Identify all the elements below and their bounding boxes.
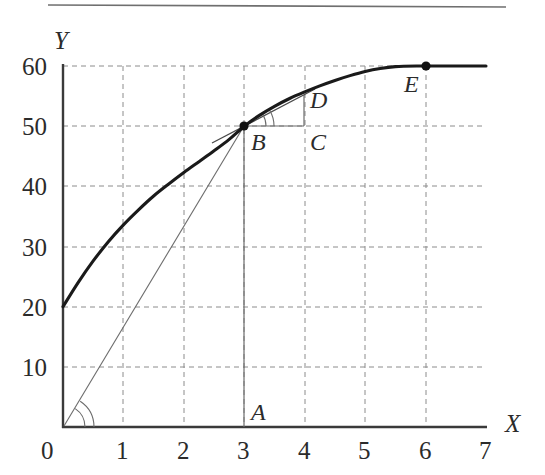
xtick-label-6: 6 bbox=[419, 438, 432, 463]
x-axis-title: X bbox=[505, 411, 520, 436]
angle-arc-origin-inner bbox=[75, 409, 85, 427]
annotation-label-e: E bbox=[404, 72, 419, 96]
xtick-label-1: 1 bbox=[116, 438, 129, 463]
xtick-label-3: 3 bbox=[237, 438, 250, 463]
annotation-label-c: C bbox=[310, 130, 326, 154]
annotation-label-a: A bbox=[251, 400, 266, 424]
ray-origin-to-b bbox=[64, 126, 244, 426]
xtick-label-0: 0 bbox=[41, 438, 54, 463]
ytick-label-10: 10 bbox=[22, 355, 47, 380]
xtick-label-2: 2 bbox=[177, 438, 190, 463]
ytick-label-60: 60 bbox=[22, 54, 47, 79]
figure-container: 60 50 40 30 20 10 0 1 2 3 4 5 6 7 Y X A … bbox=[0, 0, 545, 475]
xtick-label-7: 7 bbox=[479, 438, 492, 463]
annotation-label-d: D bbox=[310, 88, 327, 112]
xtick-label-4: 4 bbox=[298, 438, 311, 463]
angle-arc-origin bbox=[75, 401, 94, 427]
ytick-label-30: 30 bbox=[22, 235, 47, 260]
point-marker-b bbox=[239, 121, 248, 130]
angle-arc-origin-outer bbox=[80, 401, 94, 427]
ytick-label-20: 20 bbox=[22, 295, 47, 320]
chart-canvas bbox=[0, 0, 545, 475]
annotation-label-b: B bbox=[251, 130, 266, 154]
ytick-label-40: 40 bbox=[22, 174, 47, 199]
ytick-label-50: 50 bbox=[22, 114, 47, 139]
point-marker-e bbox=[421, 61, 430, 70]
xtick-label-5: 5 bbox=[358, 438, 371, 463]
top-rule bbox=[48, 5, 506, 7]
y-axis-title: Y bbox=[54, 28, 68, 53]
